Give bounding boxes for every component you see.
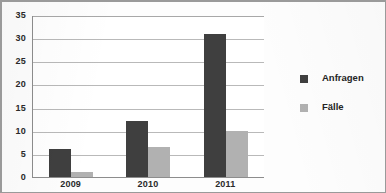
bar-group-2011 (204, 16, 248, 177)
x-axis-tick-label-2009: 2009 (36, 179, 106, 189)
bar-group-2009 (49, 16, 93, 177)
bar-2009-fälle (71, 172, 93, 177)
y-axis-tick-label: 15 (2, 103, 26, 113)
y-axis-tick-label: 10 (2, 126, 26, 136)
x-axis-tick-label-2010: 2010 (113, 179, 183, 189)
y-axis-tick-label: 30 (2, 33, 26, 43)
bar-2009-anfragen (49, 149, 71, 177)
legend-label: Fälle (322, 101, 344, 112)
bar-group-2010 (126, 16, 170, 177)
y-axis-tick-label: 20 (2, 79, 26, 89)
bar-2010-anfragen (126, 121, 148, 177)
plot-area (32, 16, 264, 178)
bar-2010-fälle (148, 147, 170, 177)
y-axis-tick-label: 0 (2, 172, 26, 182)
bar-chart-figure: 05101520253035 200920102011 AnfragenFäll… (0, 0, 386, 193)
legend-swatch-icon (300, 104, 308, 112)
chart-legend: AnfragenFälle (300, 72, 384, 130)
x-axis-tick-label-2011: 2011 (190, 179, 260, 189)
legend-label: Anfragen (322, 72, 364, 83)
legend-entry-anfragen[interactable]: Anfragen (300, 72, 384, 101)
y-axis-tick-label: 25 (2, 56, 26, 66)
legend-swatch-icon (300, 75, 308, 83)
y-axis-label-group: 05101520253035 (2, 2, 29, 193)
bar-2011-anfragen (204, 34, 226, 177)
y-axis-tick-label: 35 (2, 10, 26, 20)
legend-entry-fälle[interactable]: Fälle (300, 101, 384, 130)
x-axis-label-group: 200920102011 (32, 179, 264, 193)
bar-2011-fälle (226, 131, 248, 177)
y-axis-tick-label: 5 (2, 149, 26, 159)
